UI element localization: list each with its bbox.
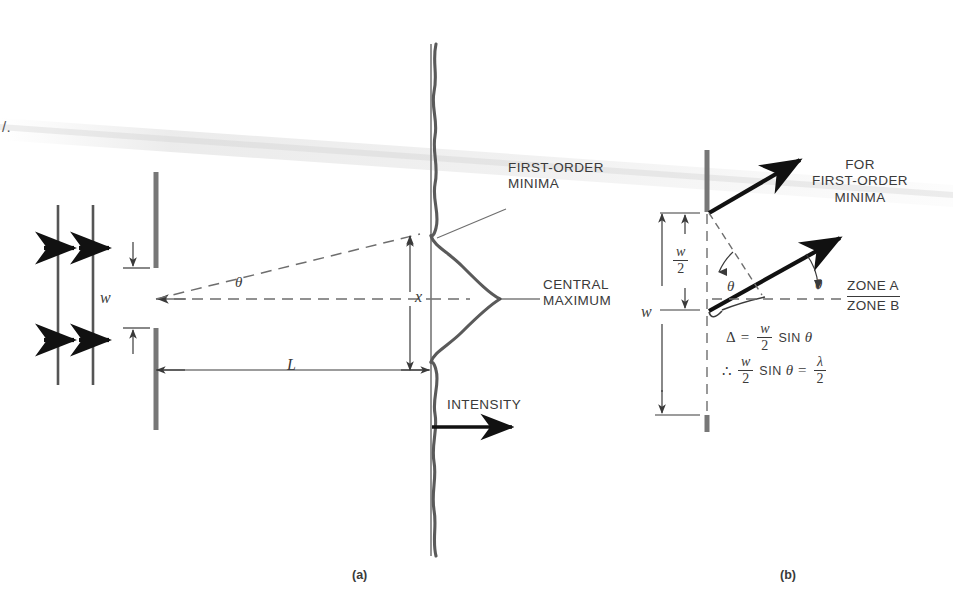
w-over-2-fraction-eq1: w 2 xyxy=(757,322,772,354)
slit-width-label-a: w xyxy=(100,289,111,307)
central-maximum-label: CENTRALMAXIMUM xyxy=(543,277,611,310)
lambda-over-2-fraction: λ 2 xyxy=(814,355,827,387)
scan-artifact-mark: /. xyxy=(2,118,11,136)
intensity-curve xyxy=(431,44,500,556)
equals-sign-2: = xyxy=(798,362,806,379)
intensity-label: INTENSITY xyxy=(447,397,521,413)
first-order-minima-label: FIRST-ORDERMINIMA xyxy=(508,160,604,193)
equals-sign-1: = xyxy=(741,329,749,346)
for-first-order-minima-label: FORFIRST-ORDERMINIMA xyxy=(800,157,920,206)
offset-label-x: x xyxy=(415,288,422,306)
path-difference-equation: Δ = w 2 SIN θ xyxy=(726,322,812,354)
first-order-minima-leader xyxy=(437,209,506,238)
zone-divider xyxy=(847,296,900,297)
delta-symbol: Δ xyxy=(726,329,736,346)
sin-label-2: SIN xyxy=(759,364,781,378)
minima-ray xyxy=(156,234,420,299)
theta-symbol-1: θ xyxy=(805,329,812,346)
w-over-2-fraction-eq2: w 2 xyxy=(738,355,753,387)
diffraction-figure xyxy=(0,0,953,614)
theta-symbol-2: θ xyxy=(786,362,793,379)
distance-label-L: L xyxy=(287,356,296,374)
minima-condition-equation: ∴ w 2 SIN θ = λ 2 xyxy=(722,355,830,387)
w-over-2-fraction: w 2 xyxy=(673,245,688,277)
zone-b-label: ZONE B xyxy=(847,298,900,315)
zone-labels: ZONE A ZONE B xyxy=(847,278,900,315)
panel-a-caption: (a) xyxy=(352,568,367,582)
panel-a xyxy=(44,44,540,556)
sin-label-1: SIN xyxy=(778,331,800,345)
angle-label-b-upper: θ xyxy=(727,278,734,295)
angle-label-a: θ xyxy=(235,274,242,291)
path-difference-construction xyxy=(709,213,765,317)
slit-width-dimension xyxy=(123,242,150,354)
zone-a-label: ZONE A xyxy=(847,278,899,295)
full-width-label-b: w xyxy=(641,303,652,321)
angle-label-b-lower: θ xyxy=(815,276,822,293)
ray-zone-b xyxy=(709,238,840,311)
panel-b-caption: (b) xyxy=(780,568,796,582)
therefore-symbol: ∴ xyxy=(722,362,732,380)
half-width-label-b: w 2 xyxy=(670,245,691,277)
